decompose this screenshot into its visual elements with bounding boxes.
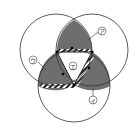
- label-d-text: エ: [70, 63, 76, 70]
- label-c-text: ウ: [30, 57, 36, 64]
- label-d: エ: [69, 62, 77, 70]
- label-b-text: イ: [90, 97, 96, 104]
- point-right: [90, 50, 93, 53]
- point-mid-right: [88, 67, 91, 70]
- label-b: イ: [89, 96, 97, 104]
- region-top: [57, 20, 92, 52]
- label-c: ウ: [29, 56, 37, 64]
- point-left: [55, 50, 58, 53]
- point-mid-left: [62, 73, 65, 76]
- point-bottom: [72, 83, 75, 86]
- venn-diagram: ア ウ エ イ: [0, 0, 140, 137]
- label-a: ア: [98, 27, 106, 35]
- point-mid-top: [71, 47, 74, 50]
- label-a-text: ア: [99, 28, 105, 35]
